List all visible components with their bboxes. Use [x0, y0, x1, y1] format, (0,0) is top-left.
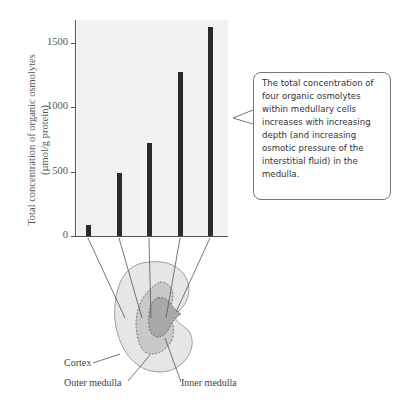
cortex-label: Cortex — [64, 357, 91, 368]
outer-medulla-label: Outer medulla — [64, 377, 121, 388]
diagram-lines — [0, 0, 400, 402]
inner-medulla-label: Inner medulla — [181, 377, 237, 388]
